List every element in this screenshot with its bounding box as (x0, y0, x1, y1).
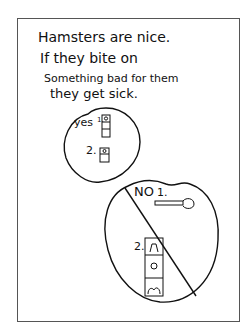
no-item-2-icon (145, 238, 163, 296)
child-drawing: Hamsters are nice. If they bite on Somet… (0, 0, 249, 336)
no-item-1-number: 1. (157, 186, 168, 199)
yes-label: yes (74, 116, 93, 129)
yes-item-2-number: 2. (86, 144, 97, 157)
text-line-3: Something bad for them (44, 72, 179, 85)
text-line-4: they get sick. (50, 86, 138, 101)
text-line-1: Hamsters are nice. (38, 29, 170, 45)
text-line-2: If they bite on (40, 50, 138, 66)
yes-item-1-number: 1. (97, 116, 104, 124)
yes-item-2-icon (100, 148, 109, 162)
no-label: NO (134, 184, 154, 199)
no-item-1-icon (155, 199, 194, 209)
no-item-2-number: 2. (134, 240, 145, 253)
